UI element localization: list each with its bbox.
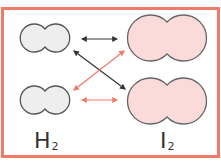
h2-molecule-top [20, 24, 69, 52]
i2-subscript: 2 [168, 140, 175, 153]
i2-molecule-bottom [127, 78, 206, 124]
h2-formula: H [34, 128, 51, 153]
h2-subscript: 2 [52, 140, 59, 153]
h2-molecule-bottom [20, 86, 69, 114]
i2-label: I2 [160, 130, 175, 156]
i2-molecule-top [127, 15, 206, 61]
i2-formula: I [160, 128, 167, 153]
h2-label: H2 [34, 130, 59, 156]
